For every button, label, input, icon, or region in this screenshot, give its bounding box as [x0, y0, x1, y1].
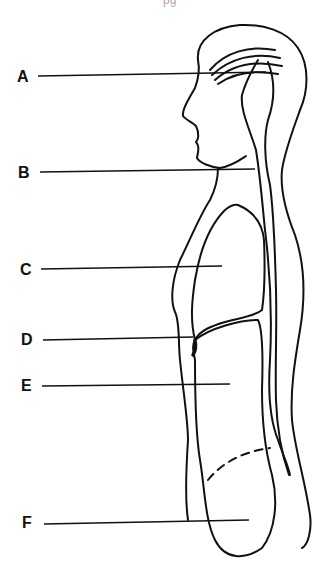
- label-e: E: [21, 378, 32, 394]
- body-outline-drawing: [0, 0, 327, 575]
- label-a: A: [17, 69, 29, 85]
- label-b: B: [18, 165, 30, 181]
- label-d: D: [21, 332, 33, 348]
- anatomy-diagram: A B C D E F pg: [0, 0, 327, 575]
- label-c: C: [20, 262, 32, 278]
- label-f: F: [22, 515, 32, 531]
- cropped-top-text: pg: [163, 0, 176, 7]
